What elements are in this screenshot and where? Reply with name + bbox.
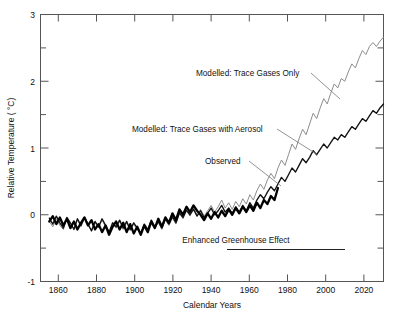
x-tick-label: 1980 bbox=[278, 285, 297, 295]
series-group bbox=[49, 37, 383, 235]
x-tick-label: 2000 bbox=[316, 285, 335, 295]
x-tick-label: 1880 bbox=[87, 285, 106, 295]
x-tick-label: 1900 bbox=[125, 285, 144, 295]
y-tick-label: 1 bbox=[30, 144, 35, 154]
y-axis-major-ticks bbox=[41, 15, 49, 282]
x-axis-title: Calendar Years bbox=[183, 300, 241, 310]
x-tick-label: 2020 bbox=[354, 285, 373, 295]
x-axis-tick-labels: 1860 1880 1900 1920 1940 1960 1980 2000 … bbox=[49, 285, 374, 295]
y-axis-tick-labels: 3 2 1 0 -1 bbox=[27, 10, 35, 287]
x-tick-label: 1960 bbox=[240, 285, 259, 295]
chart-svg: 3 2 1 0 -1 Relative Temperature ( °C) bbox=[0, 0, 397, 319]
x-tick-label: 1940 bbox=[202, 285, 221, 295]
x-tick-label: 1920 bbox=[163, 285, 182, 295]
annotation-enhanced-greenhouse-effect: Enhanced Greenhouse Effect bbox=[182, 236, 290, 245]
x-tick-label: 1860 bbox=[49, 285, 68, 295]
annotation-trace-gases-only: Modelled: Trace Gases Only bbox=[196, 69, 300, 78]
annotation-trace-gases-with-aerosol: Modelled: Trace Gases with Aerosol bbox=[132, 125, 263, 134]
y-tick-label: 0 bbox=[30, 210, 35, 220]
series-line-observed bbox=[49, 188, 278, 235]
y-axis-right-ticks bbox=[376, 48, 384, 248]
climate-projection-chart: 3 2 1 0 -1 Relative Temperature ( °C) bbox=[0, 0, 397, 319]
annotation-leaders bbox=[249, 73, 340, 186]
annotation-observed: Observed bbox=[205, 157, 241, 166]
y-axis-title: Relative Temperature ( °C) bbox=[6, 98, 16, 199]
y-tick-label: -1 bbox=[27, 277, 35, 287]
y-tick-label: 3 bbox=[30, 10, 35, 20]
series-line-trace-gases-only bbox=[49, 37, 383, 235]
y-tick-label: 2 bbox=[30, 77, 35, 87]
